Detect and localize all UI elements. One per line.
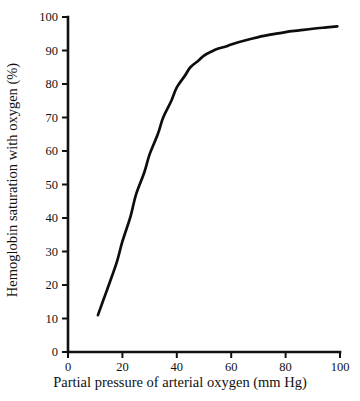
y-tick-label: 10 xyxy=(46,312,59,326)
chart-figure: 0102030405060708090100 020406080100 Hemo… xyxy=(0,0,360,401)
y-tick-label: 60 xyxy=(46,144,59,158)
axis-spines xyxy=(68,17,340,352)
x-tick-label: 0 xyxy=(65,360,71,374)
x-tick-label: 100 xyxy=(331,360,350,374)
y-tick-label: 50 xyxy=(46,178,59,192)
y-tick-label: 30 xyxy=(46,245,59,259)
x-tick-label: 80 xyxy=(279,360,292,374)
y-axis-ticks: 0102030405060708090100 xyxy=(39,10,68,359)
y-tick-label: 90 xyxy=(46,44,59,58)
x-tick-label: 40 xyxy=(171,360,184,374)
x-tick-label: 60 xyxy=(225,360,238,374)
x-axis-ticks: 020406080100 xyxy=(65,352,350,374)
x-axis-title: Partial pressure of arterial oxygen (mm … xyxy=(0,374,360,391)
data-curve-line xyxy=(98,26,337,315)
y-tick-label: 40 xyxy=(46,211,59,225)
y-tick-label: 70 xyxy=(46,111,59,125)
oxygen-dissociation-plot: 0102030405060708090100 020406080100 xyxy=(0,0,360,401)
x-axis-title-text: Partial pressure of arterial oxygen (mm … xyxy=(53,374,307,390)
x-tick-label: 20 xyxy=(116,360,129,374)
y-tick-label: 100 xyxy=(39,10,58,24)
y-tick-label: 20 xyxy=(46,278,59,292)
y-tick-label: 0 xyxy=(52,345,58,359)
y-axis-title: Hemoglobin saturation with oxygen (%) xyxy=(0,0,24,360)
y-tick-label: 80 xyxy=(46,77,59,91)
y-axis-title-text: Hemoglobin saturation with oxygen (%) xyxy=(4,63,21,297)
